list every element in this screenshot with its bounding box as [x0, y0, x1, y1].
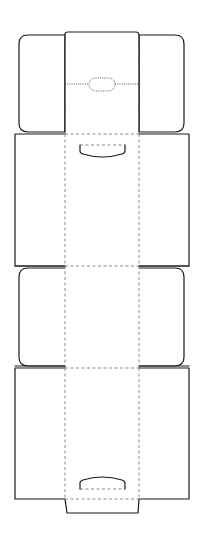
front-panel: [15, 134, 189, 266]
dieline-canvas: Box dieline template: [0, 0, 202, 543]
bottom-tab: [65, 499, 139, 513]
top-flap: [19, 32, 184, 134]
dieline-drawing: [0, 0, 202, 543]
middle-flap: [15, 266, 189, 368]
back-panel: [15, 366, 189, 499]
